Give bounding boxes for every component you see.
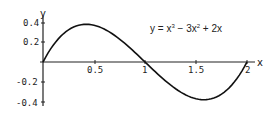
x-tick-0.5: 0.5 bbox=[87, 65, 103, 75]
function-plot: y x 0.4 0.2 -0.2 -0.4 0.5 1 1.5 2 y = x3… bbox=[0, 0, 276, 117]
y-tick-neg0.4: -0.4 bbox=[16, 98, 38, 108]
y-axis-label: y bbox=[40, 8, 46, 19]
x-tick-1: 1 bbox=[142, 65, 147, 75]
equation-label: y = x3 − 3x2 + 2x bbox=[150, 23, 222, 34]
x-tick-2: 2 bbox=[245, 65, 250, 75]
x-tick-1.5: 1.5 bbox=[188, 65, 204, 75]
y-ticks: 0.4 0.2 -0.2 -0.4 bbox=[16, 18, 45, 108]
x-axis-label: x bbox=[257, 57, 263, 68]
y-tick-0.4: 0.4 bbox=[23, 18, 39, 28]
y-tick-neg0.2: -0.2 bbox=[16, 77, 38, 87]
svg-text:y = x3 − 3x2 + 2x: y = x3 − 3x2 + 2x bbox=[150, 23, 222, 34]
y-tick-0.2: 0.2 bbox=[23, 37, 39, 47]
